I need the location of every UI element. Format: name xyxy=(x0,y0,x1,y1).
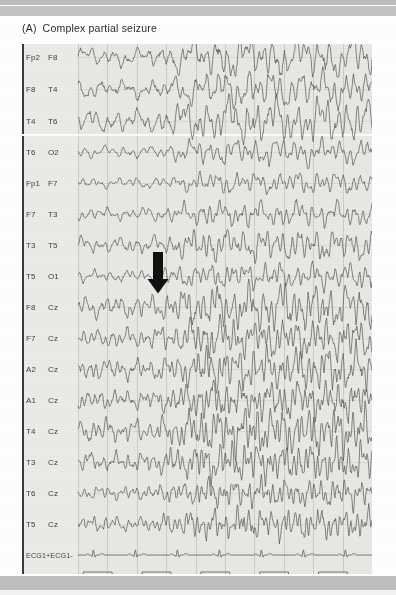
trace-t3-cz xyxy=(78,436,372,487)
trace-t4-t6 xyxy=(78,94,372,146)
scan-band-bottom xyxy=(0,576,396,590)
trace-t5-o1 xyxy=(78,261,372,293)
trace-f7-cz xyxy=(78,314,372,363)
trace-fp2-f8 xyxy=(78,44,372,77)
trace-a2-cz xyxy=(78,339,372,394)
panel-tag: (A) xyxy=(22,22,37,34)
trace-f8-t4 xyxy=(78,67,372,112)
scan-band-top-outer xyxy=(0,0,396,5)
eeg-trace-layer xyxy=(22,44,372,574)
trace-f7-t3 xyxy=(78,199,372,228)
panel-title-text: Complex partial seizure xyxy=(43,22,157,34)
scan-band-bottom-edge xyxy=(0,590,396,595)
trace-fp1-f7 xyxy=(78,171,372,195)
scan-band-top-inner xyxy=(0,6,396,16)
figure-page: (A)Complex partial seizure Fp2F8F8T4T4T6… xyxy=(0,0,396,595)
trace-t5-cz xyxy=(78,503,372,544)
page-title: (A)Complex partial seizure xyxy=(22,22,157,34)
trace-ecg1-ecg1 xyxy=(78,550,372,557)
seizure-onset-arrow xyxy=(147,252,169,294)
trace-mkr-mkr xyxy=(78,572,372,574)
trace-t6-o2 xyxy=(78,136,372,169)
trace-f8-cz xyxy=(78,279,372,332)
trace-t6-cz xyxy=(78,474,372,513)
trace-t3-t5 xyxy=(78,229,372,263)
eeg-chart: Fp2F8F8T4T4T6T6O2Fp1F7F7T3T3T5T5O1F8CzF7… xyxy=(22,44,372,574)
trace-a1-cz xyxy=(78,380,372,424)
